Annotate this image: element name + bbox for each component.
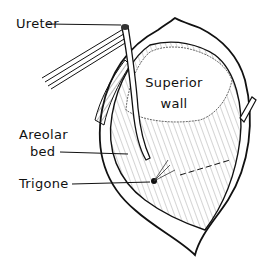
label-areolar: Areolar <box>19 128 68 142</box>
label-bed: bed <box>30 145 55 159</box>
label-ureter: Ureter <box>16 17 59 31</box>
label-superior: Superior <box>139 76 209 90</box>
ureter-tip <box>121 24 129 30</box>
label-trigone: Trigone <box>19 177 69 191</box>
label-wall: wall <box>139 97 209 111</box>
anatomical-figure: Ureter Superior wall Areolar bed Trigone <box>0 0 271 259</box>
